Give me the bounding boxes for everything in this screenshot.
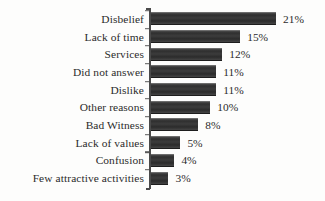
bar-value-label: 12% <box>229 48 250 60</box>
category-label: Did not answer <box>0 66 144 78</box>
bar <box>151 30 241 43</box>
bar-row: Services12% <box>0 45 325 63</box>
bar <box>151 154 175 167</box>
bar-row: Confusion4% <box>0 152 325 170</box>
axis-tick <box>145 98 149 99</box>
axis-tick <box>145 63 149 64</box>
bar-value-label: 4% <box>181 154 196 166</box>
category-label: Other reasons <box>0 101 144 113</box>
category-label: Dislike <box>0 84 144 96</box>
bar-and-value: 10% <box>151 98 239 116</box>
bar-chart: Disbelief21%Lack of time15%Services12%Di… <box>0 0 325 201</box>
bar-row: Few attractive activities3% <box>0 169 325 187</box>
bar-rows: Disbelief21%Lack of time15%Services12%Di… <box>0 10 325 187</box>
bar-row: Lack of time15% <box>0 28 325 46</box>
bar <box>151 172 169 185</box>
axis-tick <box>145 45 149 46</box>
category-label: Few attractive activities <box>0 172 144 184</box>
category-label: Lack of values <box>0 137 144 149</box>
bar-value-label: 11% <box>223 84 243 96</box>
bar-and-value: 5% <box>151 134 203 152</box>
bar <box>151 136 181 149</box>
bar-row: Dislike11% <box>0 81 325 99</box>
category-label: Lack of time <box>0 31 144 43</box>
bar-and-value: 15% <box>151 28 269 46</box>
bar-value-label: 5% <box>187 137 202 149</box>
bar-row: Bad Witness8% <box>0 116 325 134</box>
bar <box>151 12 277 25</box>
bar-row: Other reasons10% <box>0 98 325 116</box>
bar <box>151 48 223 61</box>
bar <box>151 118 199 131</box>
bar-and-value: 3% <box>151 169 191 187</box>
bar-and-value: 21% <box>151 10 304 28</box>
bar-row: Did not answer11% <box>0 63 325 81</box>
axis-tick <box>145 169 149 170</box>
bar-and-value: 12% <box>151 45 251 63</box>
bar-row: Lack of values5% <box>0 134 325 152</box>
category-label: Bad Witness <box>0 119 144 131</box>
bar <box>151 101 211 114</box>
bar-and-value: 11% <box>151 63 244 81</box>
category-label: Confusion <box>0 154 144 166</box>
bar-and-value: 8% <box>151 116 221 134</box>
bar-value-label: 15% <box>247 31 268 43</box>
bar-and-value: 11% <box>151 81 244 99</box>
axis-tick <box>145 116 149 117</box>
bar-value-label: 21% <box>283 13 304 25</box>
bar-value-label: 10% <box>217 101 238 113</box>
bar <box>151 83 217 96</box>
category-label: Disbelief <box>0 13 144 25</box>
axis-tick <box>145 28 149 29</box>
axis-tick <box>145 10 149 11</box>
bar <box>151 65 217 78</box>
bar-and-value: 4% <box>151 152 197 170</box>
bar-value-label: 3% <box>175 172 190 184</box>
bar-value-label: 11% <box>223 66 243 78</box>
category-label: Services <box>0 48 144 60</box>
axis-tick <box>145 152 149 153</box>
axis-tick <box>145 81 149 82</box>
bar-value-label: 8% <box>205 119 220 131</box>
axis-tick <box>145 134 149 135</box>
axis-bottom-cap <box>146 188 150 190</box>
bar-row: Disbelief21% <box>0 10 325 28</box>
